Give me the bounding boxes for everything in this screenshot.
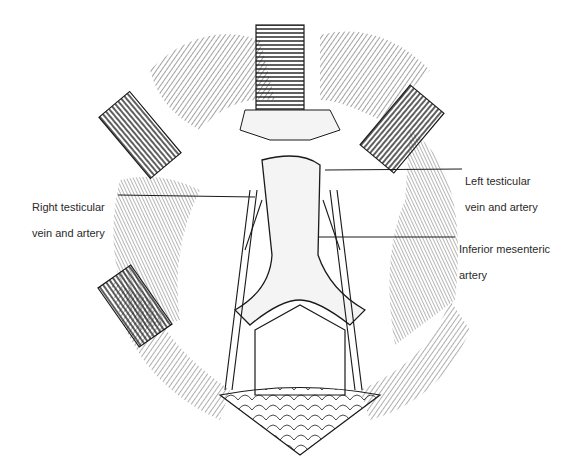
label-right-testicular-vein-artery: Right testicular vein and artery	[32, 188, 105, 253]
label-line: Right testicular	[32, 201, 105, 214]
label-line: Inferior mesenteric	[459, 243, 550, 256]
incision	[220, 388, 380, 456]
label-inferior-mesenteric-artery: Inferior mesenteric artery	[459, 230, 550, 295]
label-line: Left testicular	[465, 175, 538, 188]
label-left-testicular-vein-artery: Left testicular vein and artery	[465, 162, 538, 227]
label-line: vein and artery	[465, 201, 538, 214]
label-line: vein and artery	[32, 227, 105, 240]
label-line: artery	[459, 269, 550, 282]
aorta	[235, 110, 365, 395]
